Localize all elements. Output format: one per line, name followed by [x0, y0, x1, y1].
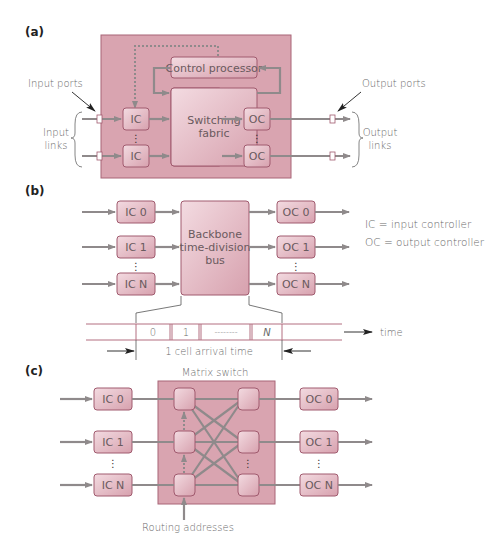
output-links-label-2: links: [369, 140, 392, 151]
ic-label-bottom: IC: [131, 150, 142, 163]
switch-node-ellipsis: ⋮: [243, 458, 253, 469]
oc-ellipsis-b: ⋮: [291, 261, 301, 272]
oc-0-label: OC 0: [283, 206, 310, 219]
slot-n: N: [263, 327, 271, 338]
legend-oc: OC = output controller: [365, 236, 485, 248]
switch-node-in-n: [174, 474, 195, 496]
time-label: time: [380, 327, 403, 338]
panel-a-label: (a): [25, 25, 44, 39]
output-links-brace: [352, 112, 363, 167]
oc-ellipsis: ⋮: [252, 133, 262, 144]
ic-0-label: IC 0: [125, 206, 146, 219]
panel-c-label: (c): [25, 364, 43, 378]
oc-c-1-label: OC 1: [306, 436, 333, 449]
slot-dashes: --------: [214, 328, 237, 337]
panel-b: (b) Backbone time-division bus IC 0 IC 1…: [25, 184, 485, 360]
input-ports-pointer: [72, 92, 95, 111]
ic-label-top: IC: [131, 113, 142, 126]
bus-label-3: bus: [205, 254, 225, 267]
output-ports-pointer: [338, 92, 361, 111]
bus-label-1: Backbone: [188, 228, 242, 241]
switch-node-in-1: [174, 431, 195, 453]
switch-node-out-n: [238, 474, 259, 496]
switching-fabric-label-1: Switching: [187, 114, 240, 127]
routing-addresses-label: Routing addresses: [142, 522, 234, 533]
switch-node-in-0: [174, 388, 195, 410]
input-port-top: [97, 115, 102, 123]
switch-architecture-diagram: (a) Control processor Switching fabric I…: [0, 0, 489, 555]
input-links-label-2: links: [45, 140, 68, 151]
timeline: 0 1 -------- N time 1 cell arrival time: [86, 324, 403, 360]
output-links-label-1: Output: [363, 127, 398, 138]
ic-c-ellipsis: ⋮: [108, 458, 118, 469]
zoom-line-left: [136, 296, 181, 323]
oc-c-0-label: OC 0: [306, 393, 333, 406]
ic-c-0-label: IC 0: [102, 393, 123, 406]
panel-b-outputs: OC 0 OC 1 ⋮ OC N: [249, 201, 349, 295]
legend-ic: IC = input controller: [365, 218, 472, 230]
matrix-switch-title: Matrix switch: [182, 367, 249, 378]
panel-a: (a) Control processor Switching fabric I…: [25, 25, 426, 178]
zoom-line-right: [249, 296, 282, 323]
ic-n-label: IC N: [125, 278, 148, 291]
oc-n-label: OC N: [282, 278, 310, 291]
ic-c-n-label: IC N: [102, 479, 125, 492]
oc-1-label: OC 1: [283, 241, 310, 254]
output-port-top: [330, 115, 335, 123]
ic-ellipsis-b: ⋮: [131, 261, 141, 272]
ic-c-1-label: IC 1: [102, 436, 123, 449]
oc-c-n-label: OC N: [305, 479, 333, 492]
ic-1-label: IC 1: [125, 241, 146, 254]
bus-label-2: time-division: [180, 241, 251, 254]
oc-label-bottom: OC: [249, 150, 266, 163]
panel-c: (c) Matrix switch ⋮ Routing address: [25, 364, 372, 533]
switch-node-out-1: [238, 431, 259, 453]
switching-fabric-label-2: fabric: [198, 127, 229, 140]
slot-1: 1: [183, 327, 189, 338]
input-links-label-1: Input: [43, 127, 69, 138]
panel-b-inputs: IC 0 IC 1 ⋮ IC N: [82, 201, 179, 295]
arrival-time-label: 1 cell arrival time: [165, 346, 253, 357]
slot-0: 0: [150, 327, 156, 338]
panel-b-label: (b): [25, 184, 45, 198]
oc-label-top: OC: [249, 113, 266, 126]
output-port-bottom: [330, 152, 335, 160]
switch-node-out-0: [238, 388, 259, 410]
oc-c-ellipsis: ⋮: [314, 458, 324, 469]
ic-ellipsis: ⋮: [131, 133, 141, 144]
output-ports-label: Output ports: [362, 78, 426, 89]
control-processor-label: Control processor: [166, 62, 263, 75]
input-links-brace: [71, 112, 82, 167]
input-ports-label: Input ports: [28, 78, 83, 89]
input-port-bottom: [97, 152, 102, 160]
